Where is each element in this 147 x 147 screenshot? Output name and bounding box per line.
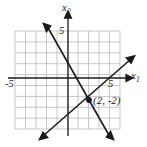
coordinate-plane-graphic	[0, 0, 147, 147]
descending-line	[44, 24, 114, 140]
y-axis-label: x2	[62, 2, 71, 16]
graph-figure: x2 x1 5 -5 5 (2, -2)	[0, 0, 147, 147]
intersection-point-label: (2, -2)	[93, 95, 121, 106]
y-axis-tick-label-5: 5	[59, 26, 64, 37]
x-axis-tick-label-negative-5: -5	[5, 79, 14, 90]
intersection-point-marker	[86, 97, 92, 103]
y-axis-label-subscript: 2	[67, 7, 71, 16]
x-axis-tick-label-5: 5	[108, 79, 113, 90]
x-axis-label: x1	[131, 70, 140, 84]
x-axis-label-subscript: 1	[136, 75, 140, 84]
